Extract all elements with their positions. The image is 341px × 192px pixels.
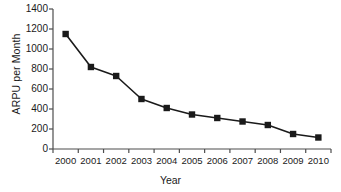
- x-axis-ticks: [53, 149, 331, 153]
- x-tick-label: 2002: [102, 156, 130, 166]
- x-tick-label: 2004: [153, 156, 181, 166]
- x-tick-label: 2010: [304, 156, 332, 166]
- chart-container: ARPU per Month 1400 1200 1000 800 600 40…: [0, 0, 341, 192]
- data-point-marker: [62, 31, 68, 37]
- data-point-marker: [265, 122, 271, 128]
- x-tick-label: 2006: [203, 156, 231, 166]
- x-axis-title: Year: [0, 174, 341, 186]
- x-tick-label: 2001: [77, 156, 105, 166]
- data-point-marker: [290, 131, 296, 137]
- data-point-marker: [214, 115, 220, 121]
- data-point-marker: [113, 73, 119, 79]
- data-point-marker: [88, 64, 94, 70]
- x-tick-label: 2009: [279, 156, 307, 166]
- data-point-marker: [315, 134, 321, 140]
- data-point-marker: [189, 111, 195, 117]
- data-point-marker: [239, 118, 245, 124]
- data-point-marker: [138, 96, 144, 102]
- x-tick-label: 2008: [254, 156, 282, 166]
- x-tick-label: 2007: [229, 156, 257, 166]
- data-line: [66, 34, 319, 138]
- x-tick-label: 2003: [127, 156, 155, 166]
- x-tick-label: 2005: [178, 156, 206, 166]
- data-point-marker: [164, 105, 170, 111]
- x-tick-label: 2000: [52, 156, 80, 166]
- data-markers: [62, 31, 321, 141]
- axis-lines: [53, 9, 331, 149]
